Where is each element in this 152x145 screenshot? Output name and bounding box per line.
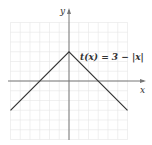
y-axis-label: y	[59, 6, 66, 16]
x-axis-label: x	[140, 85, 145, 95]
function-label: t(x) = 3 − |x|	[80, 52, 144, 63]
chart-canvas: y x t(x) = 3 − |x|	[0, 0, 152, 145]
x-axis-arrow-icon	[140, 79, 146, 83]
y-axis-arrow-icon	[67, 8, 71, 14]
